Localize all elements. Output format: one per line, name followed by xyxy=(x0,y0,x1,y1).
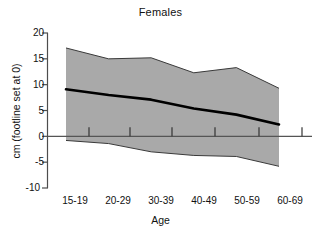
chart-title: Females xyxy=(0,6,321,18)
y-tick-label-0: 0 xyxy=(14,132,44,142)
chart-figure: Females cm (footline set at 0) Age 20 15… xyxy=(0,0,321,236)
x-axis-label: Age xyxy=(0,214,321,226)
y-tick-label-neg5: -5 xyxy=(14,157,44,167)
y-tick-label-15: 15 xyxy=(14,54,44,64)
y-tick-label-20: 20 xyxy=(14,28,44,38)
y-tick-label-5: 5 xyxy=(14,106,44,116)
y-tick-label-neg10: -10 xyxy=(10,183,40,193)
y-tick-label-10: 10 xyxy=(14,80,44,90)
x-tick-label-60-69: 60-69 xyxy=(265,196,315,206)
